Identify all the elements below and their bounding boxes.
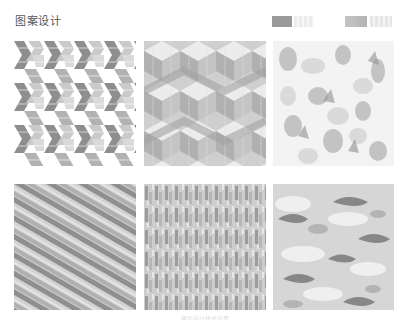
swatch-light-gray — [294, 16, 314, 27]
pattern-tile-1 — [14, 41, 136, 166]
pattern-tile-4 — [14, 184, 136, 310]
pattern-tile-6 — [273, 184, 394, 310]
page-title: 图案设计 — [15, 12, 61, 28]
swatch-mid-gray — [345, 16, 367, 27]
pattern-tile-3 — [273, 41, 394, 166]
swatch-pale-gray — [370, 16, 392, 27]
figure-caption: 图案设计样式示意 — [110, 314, 300, 320]
pattern-tile-2 — [144, 41, 266, 166]
pattern-tile-5 — [144, 184, 266, 310]
swatch-dark-gray — [272, 16, 292, 27]
